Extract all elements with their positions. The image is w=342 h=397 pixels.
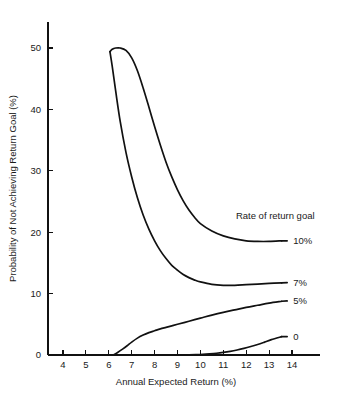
y-tick-label: 20 (30, 227, 41, 238)
y-tick-label: 10 (30, 288, 41, 299)
x-tick-label: 6 (106, 359, 111, 370)
x-tick-label: 8 (152, 359, 157, 370)
x-tick-label: 14 (287, 359, 298, 370)
y-axis-title: Probability of Not Achieving Return Goal… (7, 95, 18, 282)
series-label-5pct: 5% (293, 295, 307, 306)
x-tick-label: 9 (175, 359, 180, 370)
x-tick-label: 4 (60, 359, 65, 370)
y-tick-label: 0 (36, 349, 41, 360)
chart-canvas: 01020304050 4567891011121314 10%7%5%0 Ra… (0, 0, 342, 397)
x-tick-label: 13 (264, 359, 275, 370)
x-tick-label: 12 (241, 359, 252, 370)
legend-title: Rate of return goal (236, 210, 315, 221)
y-tick-label: 40 (30, 104, 41, 115)
series-label-0: 0 (293, 331, 298, 342)
x-tick-label: 7 (129, 359, 134, 370)
y-tick-label: 30 (30, 165, 41, 176)
x-axis-title: Annual Expected Return (%) (116, 376, 236, 387)
x-tick-label: 5 (83, 359, 88, 370)
series-label-7pct: 7% (293, 277, 307, 288)
y-tick-label: 50 (30, 42, 41, 53)
x-tick-label: 11 (218, 359, 228, 370)
series-label-10pct: 10% (293, 235, 313, 246)
legend: Rate of return goal (236, 210, 315, 221)
x-tick-label: 10 (195, 359, 206, 370)
chart-background (0, 0, 342, 397)
probability-vs-return-chart: 01020304050 4567891011121314 10%7%5%0 Ra… (0, 0, 342, 397)
